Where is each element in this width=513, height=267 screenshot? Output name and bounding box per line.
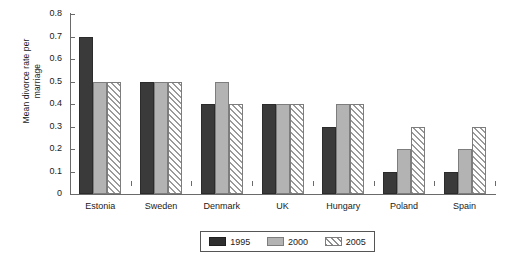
x-label-sweden: Sweden <box>131 201 192 211</box>
x-label-hungary: Hungary <box>313 201 374 211</box>
chart-legend: 199520002005 <box>200 231 375 252</box>
bar-spain-1995 <box>444 172 458 195</box>
bar-hungary-1995 <box>322 127 336 195</box>
y-tick-mark <box>70 104 75 105</box>
y-tick-label: 0.8 <box>49 8 62 18</box>
bar-spain-2000 <box>458 149 472 194</box>
y-tick-label: 0.2 <box>49 143 62 153</box>
y-tick-mark <box>70 127 75 128</box>
bar-spain-2005 <box>472 127 486 195</box>
bar-estonia-2005 <box>107 82 121 195</box>
x-tick-mark <box>313 181 314 186</box>
x-tick-mark <box>191 181 192 186</box>
plot-area: 00.10.20.30.40.50.60.70.8 <box>70 14 495 194</box>
bar-denmark-2005 <box>229 104 243 194</box>
x-tick-mark <box>252 181 253 186</box>
legend-swatch-2005 <box>325 237 342 246</box>
legend-label-2000: 2000 <box>288 237 308 247</box>
chart-screenshot: Mean divorce rate per marriage 00.10.20.… <box>0 0 513 267</box>
bar-estonia-1995 <box>79 37 93 195</box>
bar-group <box>383 14 425 194</box>
bar-estonia-2000 <box>93 82 107 195</box>
bar-poland-2000 <box>397 149 411 194</box>
bar-poland-1995 <box>383 172 397 195</box>
y-tick-label: 0.4 <box>49 98 62 108</box>
bar-group <box>140 14 182 194</box>
bar-sweden-2000 <box>154 82 168 195</box>
legend-label-1995: 1995 <box>230 237 250 247</box>
x-label-estonia: Estonia <box>70 201 131 211</box>
x-label-uk: UK <box>252 201 313 211</box>
bar-sweden-2005 <box>168 82 182 195</box>
y-tick-label: 0.6 <box>49 53 62 63</box>
bar-hungary-2000 <box>336 104 350 194</box>
y-tick-label: 0.1 <box>49 166 62 176</box>
bar-group <box>444 14 486 194</box>
y-tick-label: 0.5 <box>49 76 62 86</box>
bar-uk-2000 <box>276 104 290 194</box>
x-tick-mark <box>434 181 435 186</box>
x-label-poland: Poland <box>374 201 435 211</box>
bar-hungary-2005 <box>350 104 364 194</box>
bar-group <box>262 14 304 194</box>
y-tick-mark <box>70 37 75 38</box>
bar-sweden-1995 <box>140 82 154 195</box>
y-tick-label: 0 <box>57 188 62 198</box>
y-tick-mark <box>70 149 75 150</box>
x-tick-mark <box>131 181 132 186</box>
y-axis-title: Mean divorce rate per marriage <box>21 0 51 166</box>
bar-denmark-1995 <box>201 104 215 194</box>
bar-denmark-2000 <box>215 82 229 195</box>
x-label-spain: Spain <box>434 201 495 211</box>
legend-item-1995: 1995 <box>209 237 250 247</box>
y-tick-mark <box>70 194 75 195</box>
x-tick-mark <box>374 181 375 186</box>
bar-group <box>201 14 243 194</box>
bar-uk-2005 <box>290 104 304 194</box>
legend-swatch-1995 <box>209 237 226 246</box>
y-tick-mark <box>70 59 75 60</box>
y-tick-mark <box>70 14 75 15</box>
y-tick-label: 0.7 <box>49 31 62 41</box>
legend-item-2000: 2000 <box>267 237 308 247</box>
bar-group <box>79 14 121 194</box>
x-axis-line <box>70 194 496 195</box>
legend-swatch-2000 <box>267 237 284 246</box>
y-tick-mark <box>70 172 75 173</box>
y-tick-label: 0.3 <box>49 121 62 131</box>
legend-label-2005: 2005 <box>346 237 366 247</box>
x-tick-mark <box>495 181 496 186</box>
x-label-denmark: Denmark <box>191 201 252 211</box>
legend-item-2005: 2005 <box>325 237 366 247</box>
y-tick-mark <box>70 82 75 83</box>
bar-uk-1995 <box>262 104 276 194</box>
bar-group <box>322 14 364 194</box>
bar-poland-2005 <box>411 127 425 195</box>
